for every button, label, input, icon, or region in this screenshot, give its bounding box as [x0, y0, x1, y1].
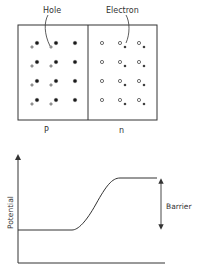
donor-ion [100, 79, 103, 82]
donor-ion [118, 60, 121, 63]
y-axis-label: Potential [6, 196, 15, 229]
acceptor-ion [54, 79, 58, 83]
hole [50, 65, 52, 67]
electron-label: Electron [106, 6, 139, 15]
acceptor-ion [73, 60, 77, 64]
donor-ion [118, 41, 121, 44]
n-region-label: n [119, 126, 124, 135]
electron [143, 46, 145, 48]
hole [31, 46, 33, 48]
acceptor-ion [73, 98, 77, 102]
donor-ion [137, 60, 140, 63]
hole-label: Hole [43, 6, 61, 15]
p-region-dots [31, 41, 77, 105]
electron [143, 84, 145, 86]
donor-ion [137, 79, 140, 82]
hole [50, 46, 52, 48]
acceptor-ion [54, 41, 58, 45]
potential-graph: Barrier Potential [6, 157, 192, 263]
donor-ion [100, 60, 103, 63]
donor-ion [118, 79, 121, 82]
electron [143, 103, 145, 105]
donor-ion [137, 41, 140, 44]
donor-ion [100, 98, 103, 101]
crystal-box [18, 25, 157, 120]
hole [50, 103, 52, 105]
acceptor-ion [35, 60, 39, 64]
donor-ion [118, 98, 121, 101]
electron [124, 65, 126, 67]
acceptor-ion [35, 98, 39, 102]
donor-ion [100, 41, 103, 44]
hole-leader-line [45, 15, 50, 46]
electron [124, 103, 126, 105]
hole [31, 103, 33, 105]
n-region-dots [100, 41, 145, 105]
acceptor-ion [35, 41, 39, 45]
hole [31, 84, 33, 86]
electron [143, 65, 145, 67]
barrier-label: Barrier [166, 202, 192, 211]
acceptor-ion [73, 41, 77, 45]
p-region-label: P [44, 126, 49, 135]
electron-leader-line [126, 15, 129, 43]
acceptor-ion [73, 79, 77, 83]
acceptor-ion [54, 60, 58, 64]
hole [31, 65, 33, 67]
potential-curve [18, 178, 157, 230]
electron [124, 46, 126, 48]
acceptor-ion [54, 98, 58, 102]
pn-junction-diagram: Hole Electron P n Barrier Potential [0, 0, 202, 272]
hole [50, 84, 52, 86]
acceptor-ion [35, 79, 39, 83]
electron [124, 84, 126, 86]
donor-ion [137, 98, 140, 101]
